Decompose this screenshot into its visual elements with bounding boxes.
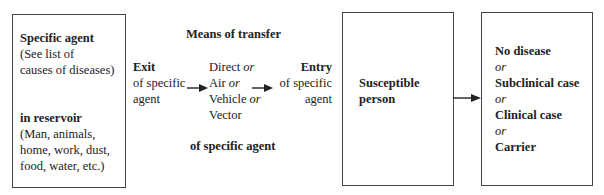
host-label: Susceptible person	[359, 75, 419, 107]
host-line-2: person	[359, 91, 419, 107]
exit-label: Exit of specific agent	[133, 59, 185, 107]
outcome-list: No disease or Subclinical case or Clinic…	[495, 43, 579, 155]
arrow-right-icon	[453, 93, 482, 103]
host-line-1: Susceptible	[359, 75, 419, 91]
reservoir-box-content: Specific agent (See list of causes of di…	[20, 30, 114, 78]
transfer-option-direct: Direct or	[209, 59, 261, 75]
outcome-carrier: Carrier	[495, 139, 579, 155]
reservoir-subtitle: in reservoir	[20, 110, 110, 126]
transfer-option-vehicle: Vehicle or	[209, 91, 261, 107]
agent-title: Specific agent	[20, 30, 114, 46]
agent-note-line-1: (See list of	[20, 46, 114, 62]
reservoir-examples: in reservoir (Man, animals, home, work, …	[20, 110, 110, 174]
exit-title: Exit	[133, 59, 185, 75]
entry-label: Entry of specific agent	[270, 59, 332, 107]
entry-title: Entry	[270, 59, 332, 75]
outcome-subclinical-case: Subclinical case	[495, 75, 579, 91]
reservoir-example-line-3: food, water, etc.)	[20, 158, 110, 174]
transfer-option-vector: Vector	[209, 107, 261, 123]
reservoir-example-line-1: (Man, animals,	[20, 126, 110, 142]
transfer-heading: Means of transfer	[186, 26, 281, 42]
agent-note-line-2: causes of diseases)	[20, 62, 114, 78]
outcome-no-disease: No disease	[495, 43, 579, 59]
outcome-connector: or	[495, 59, 579, 75]
transfer-footer: of specific agent	[190, 138, 275, 154]
exit-line-1: of specific	[133, 75, 185, 91]
entry-line-1: of specific	[270, 75, 332, 91]
exit-line-2: agent	[133, 91, 185, 107]
reservoir-example-line-2: home, work, dust,	[20, 142, 110, 158]
outcome-connector: or	[495, 123, 579, 139]
entry-line-2: agent	[270, 91, 332, 107]
outcome-connector: or	[495, 91, 579, 107]
outcome-clinical-case: Clinical case	[495, 107, 579, 123]
arrow-right-icon	[187, 83, 209, 93]
